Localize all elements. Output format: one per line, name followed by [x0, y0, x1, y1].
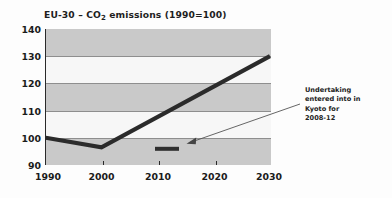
gridline-100 — [46, 138, 271, 139]
band-120-130 — [46, 56, 271, 83]
band-110-120 — [46, 83, 271, 110]
band-100-110 — [46, 111, 271, 138]
x-axis-tick-2020: 2020 — [193, 171, 237, 182]
y-axis-tick-90: 90 — [1, 160, 41, 171]
y-axis-tick-100: 100 — [1, 132, 41, 143]
x-tick-mark-2020 — [216, 161, 217, 165]
y-axis-tick-120: 120 — [1, 78, 41, 89]
x-axis-tick-2030: 2030 — [247, 171, 291, 182]
annotation-line-1: Undertaking — [305, 86, 389, 95]
chart-title-prefix: EU-30 – CO — [44, 9, 101, 20]
x-axis-tick-2010: 2010 — [136, 171, 180, 182]
x-tick-mark-2000 — [103, 161, 104, 165]
x-axis-tick-2000: 2000 — [80, 171, 124, 182]
y-axis-tick-130: 130 — [1, 51, 41, 62]
annotation-line-2: entered into in — [305, 95, 389, 104]
kyoto-annotation: Undertaking entered into in Kyoto for 20… — [305, 86, 389, 123]
chart-title-subscript: 2 — [101, 14, 106, 22]
y-axis-tick-110: 110 — [1, 105, 41, 116]
annotation-line-4: 2008-12 — [305, 114, 389, 123]
annotation-line-3: Kyoto for — [305, 105, 389, 114]
gridline-120 — [46, 83, 271, 84]
x-axis-tick-1990: 1990 — [26, 171, 70, 182]
y-axis-tick-140: 140 — [1, 24, 41, 35]
chart-title-suffix: emissions (1990=100) — [106, 9, 227, 20]
chart-title: EU-30 – CO2 emissions (1990=100) — [44, 9, 227, 20]
gridline-130 — [46, 56, 271, 57]
plot-area — [45, 29, 271, 165]
band-130-140 — [46, 29, 271, 56]
gridline-110 — [46, 111, 271, 112]
co2-emissions-chart: EU-30 – CO2 emissions (1990=100) 140 130… — [0, 0, 392, 198]
x-tick-mark-2010 — [159, 161, 160, 165]
